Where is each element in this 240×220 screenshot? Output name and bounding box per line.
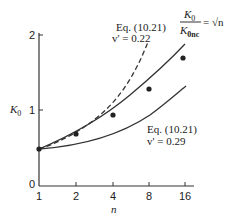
x-tick-label-1: 1: [36, 191, 42, 202]
data-point-n4: [110, 112, 115, 117]
x-tick-label-4: 4: [110, 191, 116, 202]
data-point-n8: [146, 86, 151, 91]
data-point-n2: [73, 131, 78, 136]
x-tick-label-16: 16: [179, 191, 191, 202]
data-point-n1: [36, 146, 41, 151]
y-axis-label: K0: [10, 104, 21, 119]
y-tick-label-0: 0: [29, 179, 35, 190]
x-tick-label-2: 2: [73, 191, 79, 202]
y-tick-label-2: 2: [29, 30, 35, 41]
y-tick-label-1: 1: [29, 105, 35, 116]
fraction-numerator: K0: [184, 9, 195, 24]
x-tick-label-8: 8: [146, 191, 152, 202]
annotation-eq-v029-line1: Eq. (10.21): [147, 124, 197, 135]
fraction-denominator: K0nc: [180, 25, 199, 40]
annotation-eq-v029-line2: v' = 0.29: [147, 136, 185, 147]
annotation-eq-v022-line2: v' = 0.22: [112, 33, 150, 44]
data-point-n16: [180, 55, 185, 60]
x-axis-label: n: [111, 204, 117, 215]
fraction-rhs: = √n: [203, 17, 224, 28]
curve-eq-v022: [39, 42, 148, 149]
